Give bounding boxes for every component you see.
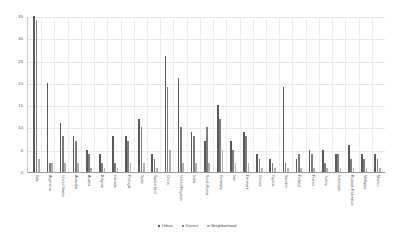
bar-group[interactable] bbox=[358, 17, 371, 172]
legend-item[interactable]: District bbox=[182, 224, 198, 228]
bar[interactable] bbox=[274, 168, 276, 172]
chart-legend: UrbanDistrictNeighborhood bbox=[0, 224, 394, 228]
bar-chart: 05101520253035 ItalyArgentinaUnited Stat… bbox=[0, 0, 394, 241]
x-label-cell: United Kingdom bbox=[174, 174, 187, 222]
bar-group[interactable] bbox=[253, 17, 266, 172]
bar-group[interactable] bbox=[187, 17, 200, 172]
x-label-cell: Austria bbox=[82, 174, 95, 222]
bar-group[interactable] bbox=[109, 17, 122, 172]
x-label-cell: Finland bbox=[292, 174, 305, 222]
legend-label: District bbox=[186, 224, 198, 228]
bar[interactable] bbox=[36, 20, 38, 172]
x-tick-label: Greece bbox=[257, 175, 261, 187]
x-tick-label: Mexico bbox=[375, 175, 379, 186]
y-tick-label: 20 bbox=[18, 82, 23, 86]
bar-group[interactable] bbox=[227, 17, 240, 172]
x-label-cell: Germany bbox=[213, 174, 226, 222]
x-label-cell: India bbox=[187, 174, 200, 222]
x-tick-label: Switzerland bbox=[152, 175, 156, 194]
bar-group[interactable] bbox=[214, 17, 227, 172]
x-label-cell: Russian Federation bbox=[344, 174, 357, 222]
x-tick-label: Spain bbox=[139, 175, 143, 184]
x-label-cell: Mexico bbox=[371, 174, 384, 222]
bar-group[interactable] bbox=[279, 17, 292, 172]
legend-item[interactable]: Neighborhood bbox=[207, 224, 236, 228]
bar[interactable] bbox=[104, 168, 106, 172]
bar[interactable] bbox=[248, 163, 250, 172]
bar[interactable] bbox=[117, 168, 119, 172]
y-tick-label: 25 bbox=[18, 59, 23, 63]
bar[interactable] bbox=[379, 168, 381, 172]
bar-group[interactable] bbox=[56, 17, 69, 172]
bar[interactable] bbox=[287, 168, 289, 172]
x-label-cell: Switzerland bbox=[147, 174, 160, 222]
bar-group[interactable] bbox=[266, 17, 279, 172]
bar-group[interactable] bbox=[345, 17, 358, 172]
y-tick-label: 15 bbox=[18, 104, 23, 108]
x-label-cell: Indonesia bbox=[331, 174, 344, 222]
bar[interactable] bbox=[130, 163, 132, 172]
bar-group[interactable] bbox=[174, 17, 187, 172]
x-tick-label: Germany bbox=[218, 175, 222, 190]
bar-group[interactable] bbox=[305, 17, 318, 172]
bar-group[interactable] bbox=[148, 17, 161, 172]
bar[interactable] bbox=[77, 163, 79, 172]
bar-group[interactable] bbox=[332, 17, 345, 172]
bar[interactable] bbox=[313, 168, 315, 172]
bar[interactable] bbox=[366, 168, 368, 172]
x-label-cell: China bbox=[160, 174, 173, 222]
bar[interactable] bbox=[38, 159, 40, 172]
bar[interactable] bbox=[235, 163, 237, 172]
bar[interactable] bbox=[222, 150, 224, 172]
bar[interactable] bbox=[156, 168, 158, 172]
bar-group[interactable] bbox=[122, 17, 135, 172]
bar-group[interactable] bbox=[82, 17, 95, 172]
y-tick-label: 0 bbox=[21, 171, 23, 175]
x-label-cell: Italy bbox=[29, 174, 42, 222]
legend-swatch-icon bbox=[158, 225, 161, 228]
bar-group[interactable] bbox=[135, 17, 148, 172]
bar[interactable] bbox=[340, 168, 342, 172]
y-tick-label: 30 bbox=[18, 37, 23, 41]
x-tick-label: Malaysia bbox=[362, 175, 366, 189]
x-tick-label: Indonesia bbox=[336, 175, 340, 191]
bar[interactable] bbox=[195, 163, 197, 172]
bar-group[interactable] bbox=[371, 17, 384, 172]
bar[interactable] bbox=[261, 168, 263, 172]
x-tick-label: Cyprus bbox=[270, 175, 274, 186]
x-label-cell: Turkey bbox=[318, 174, 331, 222]
x-tick-label: South Korea bbox=[205, 175, 209, 195]
bar[interactable] bbox=[47, 83, 49, 172]
x-tick-label: Denmark bbox=[244, 175, 248, 190]
bar-group[interactable] bbox=[43, 17, 56, 172]
bar[interactable] bbox=[64, 163, 66, 172]
legend-item[interactable]: Urban bbox=[158, 224, 173, 228]
bar[interactable] bbox=[90, 168, 92, 172]
x-tick-label: Austria bbox=[86, 175, 90, 186]
bar[interactable] bbox=[300, 168, 302, 172]
bar-group[interactable] bbox=[240, 17, 253, 172]
bar[interactable] bbox=[353, 168, 355, 172]
legend-label: Urban bbox=[162, 224, 173, 228]
bar[interactable] bbox=[169, 150, 171, 172]
bar-group[interactable] bbox=[96, 17, 109, 172]
bar-group[interactable] bbox=[200, 17, 213, 172]
bar[interactable] bbox=[182, 163, 184, 172]
x-label-cell: United States bbox=[55, 174, 68, 222]
x-tick-label: Australia bbox=[73, 175, 77, 189]
legend-label: Neighborhood bbox=[211, 224, 236, 228]
bar-group[interactable] bbox=[69, 17, 82, 172]
bar-group[interactable] bbox=[318, 17, 331, 172]
bar[interactable] bbox=[326, 168, 328, 172]
plot-area bbox=[27, 17, 385, 173]
bar[interactable] bbox=[51, 163, 53, 172]
bar-group[interactable] bbox=[161, 17, 174, 172]
bar[interactable] bbox=[208, 163, 210, 172]
bar-group[interactable] bbox=[30, 17, 43, 172]
x-label-cell: Australia bbox=[68, 174, 81, 222]
bar[interactable] bbox=[283, 87, 285, 172]
bar-group[interactable] bbox=[292, 17, 305, 172]
x-tick-label: Turkey bbox=[323, 175, 327, 186]
x-label-cell: Argentina bbox=[42, 174, 55, 222]
bar[interactable] bbox=[143, 163, 145, 172]
